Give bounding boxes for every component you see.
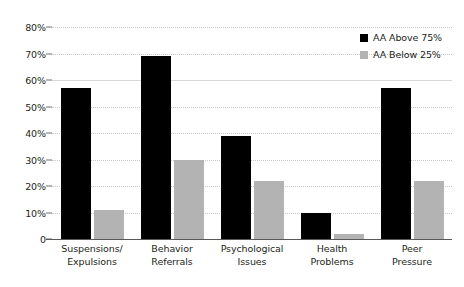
x-axis-category-label-line: Psychological (212, 243, 292, 256)
bar (61, 88, 91, 239)
bar-group (132, 0, 212, 239)
legend-label: AA Above 75% (373, 32, 442, 43)
x-axis-category-label-line: Peer (372, 243, 452, 256)
bar (254, 181, 284, 239)
y-axis: 010%20%30%40%50%60%70%80% (0, 0, 52, 287)
x-axis-category-label: PeerPressure (372, 243, 452, 268)
y-axis-tick-label: 20% (25, 181, 46, 192)
bar (301, 213, 331, 240)
y-axis-tick-label: 70% (25, 48, 46, 59)
bar (141, 56, 171, 239)
y-axis-tick-label: 10% (25, 207, 46, 218)
y-axis-tick-label: 30% (25, 154, 46, 165)
x-axis-category-label-line: Issues (212, 256, 292, 269)
x-axis-category-label-line: Pressure (372, 256, 452, 269)
bar (381, 88, 411, 239)
x-axis-category-label-line: Health (292, 243, 372, 256)
x-axis-category-label-line: Suspensions/ (52, 243, 132, 256)
x-axis-category-label: HealthProblems (292, 243, 372, 268)
x-axis-line (46, 239, 452, 240)
legend-label: AA Below 25% (373, 49, 441, 60)
bar (221, 136, 251, 239)
legend-item-0: AA Above 75% (360, 30, 460, 45)
x-axis-category-label-line: Expulsions (52, 256, 132, 269)
bar (174, 160, 204, 240)
y-axis-tick-label: 40% (25, 128, 46, 139)
legend-swatch-icon (360, 51, 368, 59)
y-axis-tick-label: 50% (25, 101, 46, 112)
legend-swatch-icon (360, 34, 368, 42)
bar-group (52, 0, 132, 239)
y-axis-tick-label: 60% (25, 75, 46, 86)
x-axis-category-label: PsychologicalIssues (212, 243, 292, 268)
x-axis-category-label-line: Behavior (132, 243, 212, 256)
legend-item-1: AA Below 25% (360, 47, 460, 62)
x-axis-category-label: Suspensions/Expulsions (52, 243, 132, 268)
x-axis-category-label-line: Problems (292, 256, 372, 269)
x-axis-labels: Suspensions/ExpulsionsBehaviorReferralsP… (52, 243, 452, 283)
bar-group (212, 0, 292, 239)
chart-legend: AA Above 75% AA Below 25% (360, 30, 460, 64)
bar-chart: 010%20%30%40%50%60%70%80% Suspensions/Ex… (0, 0, 464, 287)
bar (414, 181, 444, 239)
bar (94, 210, 124, 239)
x-axis-category-label: BehaviorReferrals (132, 243, 212, 268)
y-axis-tick-label: 80% (25, 22, 46, 33)
x-axis-category-label-line: Referrals (132, 256, 212, 269)
